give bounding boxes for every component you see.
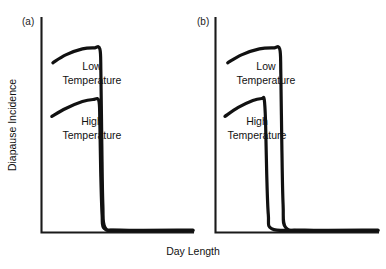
panel-b-low-label-line2: Temperature [237, 74, 296, 86]
y-axis-title: Diapause Incidence [6, 79, 18, 171]
panel-a-high-temperature-curve [52, 99, 193, 231]
panel-b-high-label-line2: Temperature [228, 129, 287, 141]
figure-svg: (a) Low Temperature High Temperature (b)… [0, 0, 386, 269]
panel-a-low-label-line2: Temperature [63, 74, 122, 86]
panel-b-label: (b) [197, 16, 209, 27]
panel-b-low-label-line1: Low [256, 60, 276, 72]
panel-a-low-label-line1: Low [82, 60, 102, 72]
panel-a-axes [42, 18, 194, 233]
panel-a-high-label-line1: High [81, 115, 103, 127]
panel-b-axes [216, 18, 379, 233]
figure-container: (a) Low Temperature High Temperature (b)… [0, 0, 386, 269]
panel-b: (b) Low Temperature High Temperature [197, 16, 378, 233]
panel-a: (a) Low Temperature High Temperature [22, 16, 193, 233]
x-axis-title: Day Length [166, 245, 220, 257]
panel-a-label: (a) [22, 16, 34, 27]
panel-a-high-label-line2: Temperature [63, 129, 122, 141]
panel-b-high-label-line1: High [246, 115, 268, 127]
